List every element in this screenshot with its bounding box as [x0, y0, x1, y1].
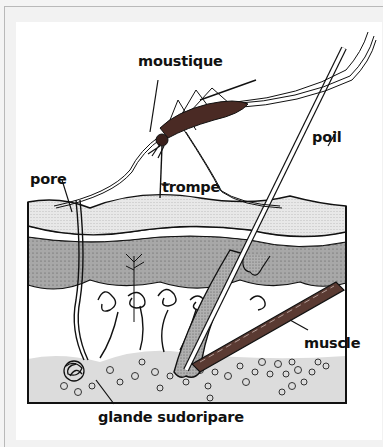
skin-diagram-illustration [16, 22, 382, 440]
label-trompe: trompe [162, 180, 220, 195]
diagram-canvas: moustique poil pore trompe muscle glande… [16, 22, 382, 440]
label-pore: pore [30, 172, 67, 187]
label-moustique: moustique [138, 54, 223, 69]
label-glande-sudoripare: glande sudoripare [98, 410, 244, 425]
label-muscle: muscle [304, 336, 360, 351]
label-poil: poil [312, 130, 341, 145]
mosquito-body [148, 101, 248, 158]
